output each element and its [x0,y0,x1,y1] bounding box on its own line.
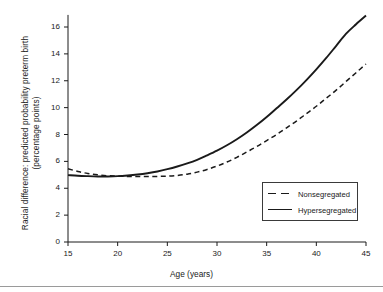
legend-label-hypersegregated: Hypersegregated [298,206,356,215]
x-tick-label: 15 [57,249,79,258]
series-line-hypersegregated [68,16,366,177]
y-tick-label: 4 [42,183,60,192]
legend-label-nonsegregated: Nonsegregated [298,190,350,199]
chart-legend: Nonsegregated Hypersegregated [262,182,358,221]
dashed-line-icon [268,189,292,199]
solid-line-icon [268,205,292,215]
y-tick-label: 8 [42,130,60,139]
figure-panel: Racial difference: predicted probability… [0,0,383,292]
x-tick-label: 30 [206,249,228,258]
x-tick-label: 35 [256,249,278,258]
x-tick-label: 25 [156,249,178,258]
y-tick-label: 16 [42,22,60,31]
x-tick-label: 40 [305,249,327,258]
y-tick-label: 6 [42,156,60,165]
footer-divider [0,286,383,287]
y-tick-label: 10 [42,103,60,112]
x-tick-label: 45 [355,249,377,258]
y-tick-label: 0 [42,237,60,246]
y-tick-label: 12 [42,76,60,85]
x-axis-label: Age (years) [0,269,383,279]
legend-item-hypersegregated: Hypersegregated [268,203,356,217]
y-tick-label: 2 [42,210,60,219]
y-tick-label: 14 [42,49,60,58]
legend-item-nonsegregated: Nonsegregated [268,187,350,201]
series-line-nonsegregated [68,64,366,177]
x-tick-label: 20 [107,249,129,258]
